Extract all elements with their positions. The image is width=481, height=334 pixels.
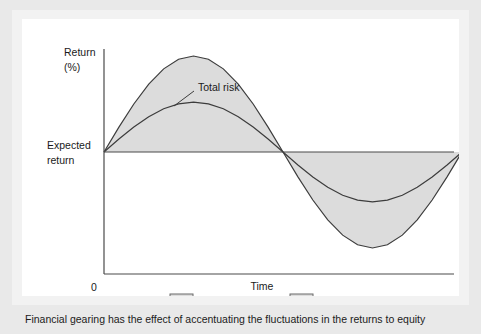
origin-label: 0 <box>91 281 97 293</box>
risk-chart: Return (%) Expected return 0 Time Total … <box>22 19 459 296</box>
legend-label-business-risk: Business risk <box>200 294 263 296</box>
legend: Business risk Financial risk <box>170 294 382 296</box>
legend-swatch-financial-risk <box>290 294 313 296</box>
y-axis-label-line1: Return <box>64 46 96 58</box>
expected-return-label-line2: return <box>47 154 75 166</box>
total-risk-annotation: Total risk <box>198 81 240 93</box>
figure-caption: Financial gearing has the effect of acce… <box>25 313 465 326</box>
x-axis-label: Time <box>251 280 274 292</box>
expected-return-label-line1: Expected <box>47 139 91 151</box>
legend-swatch-business-risk <box>170 294 193 296</box>
figure-panel: Return (%) Expected return 0 Time Total … <box>22 19 459 296</box>
figure-frame: Return (%) Expected return 0 Time Total … <box>12 10 469 305</box>
legend-label-financial-risk: Financial risk <box>320 294 382 296</box>
y-axis-label-line2: (%) <box>64 61 80 73</box>
